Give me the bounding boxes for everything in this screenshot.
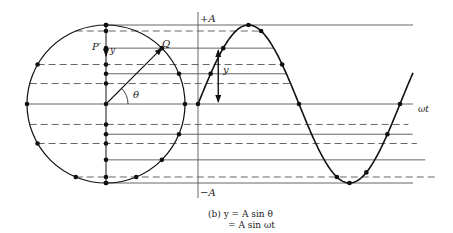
theta-label: θ: [133, 89, 139, 100]
wave-point: [246, 23, 251, 28]
wave-point: [259, 29, 264, 34]
diameter-point: [104, 132, 109, 137]
p-prime-label: P′: [91, 41, 102, 52]
diameter-point: [104, 46, 109, 51]
diameter-point: [104, 158, 109, 163]
circle-point: [160, 158, 165, 163]
plus-a-label: +A: [200, 13, 216, 24]
wave-point: [297, 102, 302, 107]
caption-line-1: (b) y = A sin θ: [208, 209, 273, 219]
diameter-point: [104, 62, 109, 67]
circle-point: [35, 62, 40, 67]
diameter-point: [104, 81, 109, 86]
circle-point: [73, 175, 78, 180]
diameter-point: [104, 122, 109, 127]
circle-point: [134, 175, 139, 180]
circle-point: [177, 71, 182, 76]
circle-point-top: [104, 23, 109, 28]
diameter-point: [104, 175, 109, 180]
diameter-point: [104, 102, 109, 107]
minus-a-label: −A: [200, 187, 216, 198]
theta-arc: [122, 88, 128, 104]
wave-point: [280, 62, 285, 67]
circle-point-bottom: [104, 181, 109, 186]
projection-lines: [27, 25, 438, 183]
circle-point: [183, 102, 188, 107]
wave-point: [208, 71, 213, 76]
wave-point: [385, 132, 390, 137]
diameter-point: [104, 29, 109, 34]
circle-point: [25, 102, 30, 107]
wave-point: [335, 175, 340, 180]
y-wave-label: y: [222, 64, 229, 75]
circle-point: [35, 141, 40, 146]
diameter-point: [104, 71, 109, 76]
wave-point: [196, 102, 201, 107]
wave-point: [398, 102, 403, 107]
diameter-point: [104, 141, 109, 146]
omega-t-axis-label: ωt: [418, 104, 429, 114]
wave-point: [221, 46, 226, 51]
rotating-phasor-sine-diagram: +A −A ωt P′ Q θ y y (b) y = A sin θ = A …: [0, 0, 453, 233]
wave-point: [364, 170, 369, 175]
wave-point: [347, 181, 352, 186]
q-label: Q: [162, 38, 170, 49]
y-circle-label: y: [109, 45, 116, 55]
circle-point: [177, 132, 182, 137]
caption-line-2: = A sin ωt: [228, 220, 275, 230]
